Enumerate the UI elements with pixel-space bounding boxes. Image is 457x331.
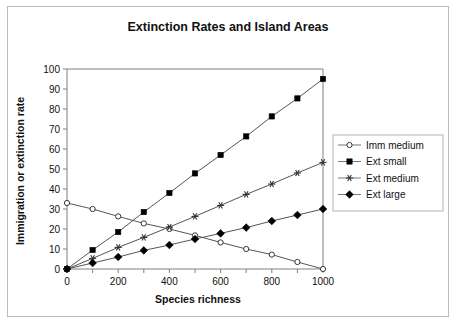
- y-tick-label: 60: [49, 144, 61, 155]
- data-point-marker: [320, 266, 325, 271]
- chart-title: Extinction Rates and Island Areas: [128, 20, 329, 34]
- y-axis-ticks: 0102030405060708090100: [43, 64, 67, 275]
- data-point-marker: [114, 253, 122, 261]
- data-point-marker: [243, 191, 250, 197]
- x-axis-title: Species richness: [155, 293, 241, 305]
- y-tick-label: 30: [49, 204, 61, 215]
- data-point-marker: [140, 247, 148, 255]
- legend-marker: [347, 142, 352, 147]
- data-point-marker: [295, 259, 300, 264]
- data-point-marker: [141, 221, 146, 226]
- data-point-marker: [295, 96, 300, 101]
- y-tick-label: 40: [49, 184, 61, 195]
- y-axis-title: Immigration or extinction rate: [14, 97, 26, 245]
- y-tick-label: 50: [49, 164, 61, 175]
- data-point-marker: [191, 213, 198, 219]
- legend-marker: [347, 159, 352, 164]
- legend-label: Imm medium: [366, 140, 424, 151]
- data-point-marker: [90, 206, 95, 211]
- y-tick-label: 0: [54, 264, 60, 275]
- y-tick-label: 90: [49, 84, 61, 95]
- y-tick-label: 20: [49, 224, 61, 235]
- data-point-marker: [218, 240, 223, 245]
- y-tick-label: 70: [49, 124, 61, 135]
- data-point-marker: [192, 171, 197, 176]
- x-tick-label: 600: [212, 276, 229, 287]
- data-point-marker: [268, 217, 276, 225]
- data-point-marker: [141, 209, 146, 214]
- data-point-marker: [89, 259, 97, 267]
- chart-frame: Extinction Rates and Island Areas Immigr…: [7, 6, 449, 317]
- x-tick-label: 0: [64, 276, 70, 287]
- data-point-marker: [320, 76, 325, 81]
- data-point-marker: [319, 205, 327, 213]
- x-tick-label: 400: [161, 276, 178, 287]
- x-tick-label: 800: [263, 276, 280, 287]
- legend-label: Ext small: [366, 156, 407, 167]
- data-point-marker: [167, 190, 172, 195]
- data-point-marker: [140, 234, 147, 240]
- x-tick-label: 200: [110, 276, 127, 287]
- series-ext-large: [63, 205, 327, 273]
- data-point-marker: [217, 202, 224, 208]
- data-point-marker: [64, 200, 69, 205]
- chart-legend: Imm mediumExt smallExt mediumExt large: [333, 135, 443, 211]
- legend-label: Ext large: [366, 189, 406, 200]
- x-tick-label: 1000: [312, 276, 335, 287]
- y-tick-label: 80: [49, 104, 61, 115]
- data-point-marker: [166, 241, 174, 249]
- data-point-marker: [218, 152, 223, 157]
- data-point-marker: [217, 230, 225, 238]
- data-point-marker: [242, 224, 250, 232]
- data-point-marker: [116, 229, 121, 234]
- data-point-marker: [294, 170, 301, 176]
- extinction-rates-line-chart: Extinction Rates and Island Areas Immigr…: [8, 7, 448, 316]
- data-point-marker: [244, 134, 249, 139]
- data-point-marker: [294, 211, 302, 219]
- data-point-marker: [244, 246, 249, 251]
- data-point-marker: [269, 114, 274, 119]
- data-series-group: [63, 76, 327, 273]
- data-point-marker: [116, 214, 121, 219]
- data-point-marker: [90, 247, 95, 252]
- data-point-marker: [268, 181, 275, 187]
- x-axis-ticks: 02004006008001000: [64, 269, 334, 287]
- y-tick-label: 10: [49, 244, 61, 255]
- data-point-marker: [269, 252, 274, 257]
- legend-label: Ext medium: [366, 173, 419, 184]
- y-tick-label: 100: [43, 64, 60, 75]
- data-point-marker: [115, 244, 122, 250]
